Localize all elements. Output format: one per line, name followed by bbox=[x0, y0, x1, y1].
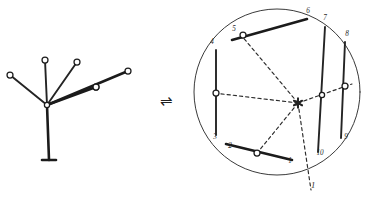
branch-node-b3 bbox=[74, 59, 80, 65]
chords-group bbox=[216, 19, 345, 160]
spoke-node-n-bottom bbox=[254, 150, 260, 156]
branch-line-b1 bbox=[10, 75, 47, 105]
branch-node-b2 bbox=[42, 57, 48, 63]
vertex-label-4: 4 bbox=[210, 38, 214, 46]
right-figure-group: 12345678910 1 bbox=[194, 7, 360, 190]
branch-node-b1 bbox=[7, 72, 13, 78]
diagram-canvas: ⇌ 12345678910 1 bbox=[0, 0, 367, 197]
stem-line bbox=[47, 105, 49, 160]
vertex-label-1: 1 bbox=[288, 157, 292, 165]
spoke-s-hub-1 bbox=[298, 103, 311, 190]
equilibrium-symbol-group: ⇌ bbox=[160, 93, 173, 109]
spoke-node-n-top bbox=[240, 32, 246, 38]
vertex-label-2: 2 bbox=[228, 142, 232, 150]
spoke-s-hub-5 bbox=[241, 35, 298, 103]
spoke-node-n-left bbox=[213, 90, 219, 96]
spoke-node-group bbox=[213, 32, 348, 156]
spoke-s-hub-4 bbox=[214, 93, 298, 103]
vertex-label-9: 9 bbox=[344, 133, 348, 141]
chord-c-7-10 bbox=[318, 27, 325, 152]
vertex-label-7: 7 bbox=[323, 14, 327, 22]
equilibrium-arrows-icon: ⇌ bbox=[160, 93, 173, 109]
hub-joint bbox=[44, 102, 49, 107]
branch-node-b5 bbox=[125, 68, 131, 74]
spoke-node-n-right2 bbox=[342, 83, 348, 89]
vertex-label-10: 10 bbox=[316, 149, 324, 157]
chord-c-8-9 bbox=[341, 42, 345, 138]
branch-group bbox=[7, 57, 131, 105]
branch-line-b2 bbox=[45, 60, 47, 105]
vertex-label-6: 6 bbox=[306, 7, 310, 15]
spoke-s-hub-2 bbox=[258, 103, 298, 152]
branch-mid-node bbox=[93, 84, 99, 90]
vertex-label-5: 5 bbox=[232, 25, 236, 33]
radial-spokes-group bbox=[214, 35, 352, 190]
vertex-label-group: 12345678910 bbox=[210, 7, 349, 165]
spoke-node-n-right1 bbox=[319, 92, 324, 97]
stem-group bbox=[42, 105, 56, 160]
pointer-label: 1 bbox=[311, 180, 315, 190]
vertex-label-8: 8 bbox=[345, 30, 349, 38]
figure-root: ⇌ 12345678910 1 bbox=[0, 0, 367, 197]
vertex-label-3: 3 bbox=[212, 133, 217, 141]
left-figure-group bbox=[7, 57, 131, 160]
